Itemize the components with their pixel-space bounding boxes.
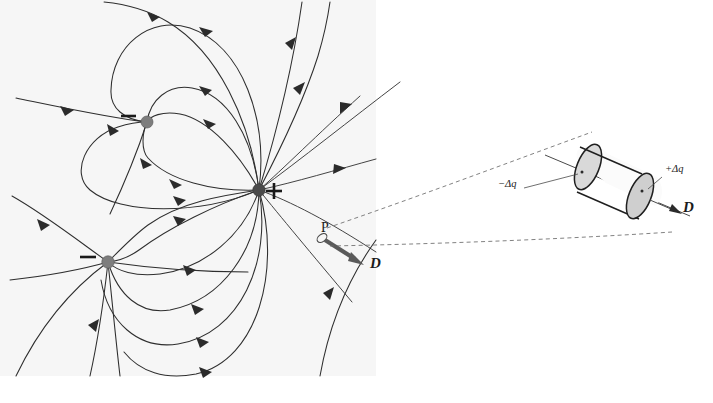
label-negative-delta-q: −Δq <box>498 178 517 189</box>
leader-negative-dq <box>524 174 578 188</box>
cap-center-dot-positive <box>641 190 644 193</box>
D-vector-label: D <box>369 255 381 271</box>
charge-positive-center <box>253 184 265 196</box>
leader-line-lower <box>330 232 672 246</box>
cylinder-D-label: D <box>682 199 694 215</box>
charge-negative-lower <box>102 256 114 268</box>
left-panel-background <box>0 0 376 376</box>
cap-center-dot-negative <box>581 171 584 174</box>
figure-root: P D <box>0 0 713 403</box>
charge-negative-upper <box>141 116 153 128</box>
label-positive-delta-q: +Δq <box>665 163 684 174</box>
flux-tube-cylinder-group: −Δq +Δq D <box>498 141 694 223</box>
cylinder-axis-arrowhead-icon <box>669 204 682 214</box>
figure-canvas: P D <box>0 0 713 403</box>
